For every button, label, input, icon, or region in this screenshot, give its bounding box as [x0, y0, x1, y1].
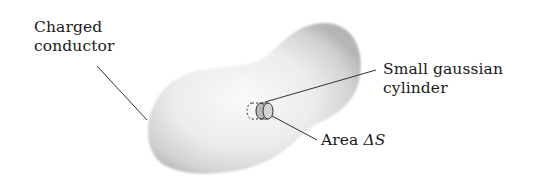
area-label-symbol: ΔS	[363, 131, 385, 149]
charged-conductor-label: Charged conductor	[34, 18, 114, 56]
cylinder-label-line2: cylinder	[383, 79, 503, 98]
charged-conductor-shape	[148, 23, 361, 174]
conductor-label-line1: Charged	[34, 18, 114, 37]
cylinder-label-line1: Small gaussian	[383, 60, 503, 79]
conductor-label-line2: conductor	[34, 37, 114, 56]
area-label-prefix: Area	[321, 131, 363, 149]
area-label: Area ΔS	[321, 131, 385, 150]
conductor-leader-line	[97, 66, 147, 120]
gaussian-cylinder-label: Small gaussian cylinder	[383, 60, 503, 98]
